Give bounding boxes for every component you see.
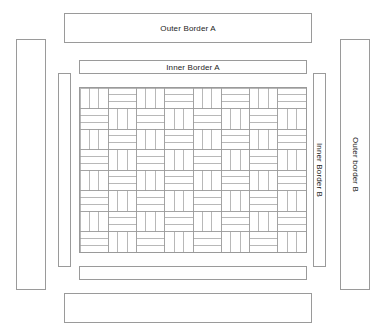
outer-border-a-top[interactable]: Outer Border A [64, 13, 312, 43]
quilt-layout-diagram: Outer Border A Outer border B Inner Bord… [0, 0, 375, 335]
outer-border-a-top-label: Outer Border A [65, 14, 311, 42]
inner-border-a-bottom[interactable] [79, 266, 307, 280]
inner-border-a-top[interactable]: Inner Border A [79, 60, 307, 74]
basketweave-quilt-center[interactable] [79, 87, 307, 253]
inner-border-b-left[interactable] [58, 73, 71, 267]
inner-border-a-top-label: Inner Border A [80, 61, 306, 73]
inner-border-a-bottom-label [80, 267, 306, 279]
outer-border-a-bottom[interactable] [64, 293, 312, 323]
outer-border-a-bottom-label [65, 294, 311, 322]
inner-border-b-right[interactable]: Inner Border B [313, 73, 326, 267]
